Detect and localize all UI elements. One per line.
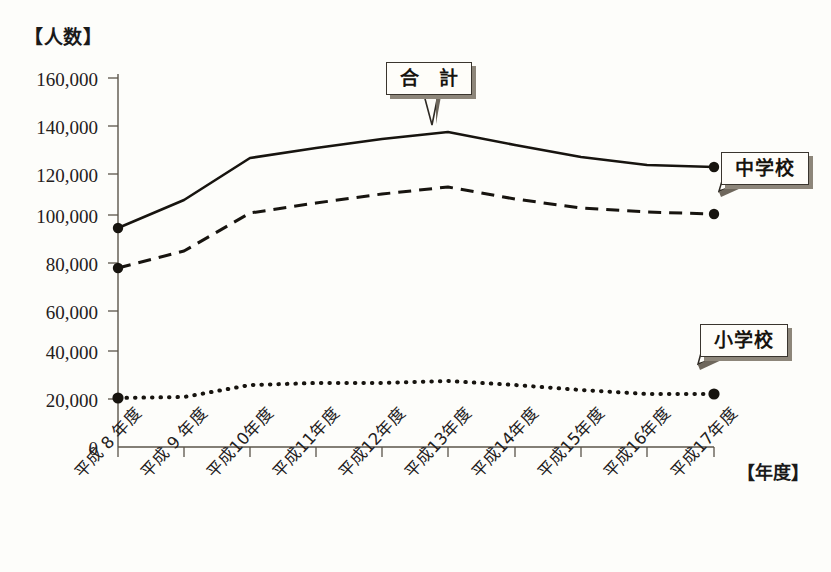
series-marker-elementary-start bbox=[112, 392, 123, 403]
series-marker-total-end bbox=[709, 162, 719, 172]
series-marker-junior-high-start bbox=[113, 263, 123, 273]
series-line-junior-high bbox=[118, 187, 714, 268]
callout-total-label: 合 計 bbox=[386, 62, 472, 95]
series-line-total bbox=[118, 132, 714, 228]
chart-page: 【人数】 【年度】 160,000 140,000 120,000 100,00… bbox=[0, 0, 831, 572]
callout-elementary-label: 小学校 bbox=[700, 324, 788, 357]
series-marker-junior-high-end bbox=[709, 209, 719, 219]
series-line-elementary bbox=[118, 381, 714, 398]
callout-leader-total bbox=[424, 95, 441, 125]
callout-junior-high-label: 中学校 bbox=[721, 152, 809, 185]
y-tick-marks bbox=[108, 78, 118, 399]
series-marker-total-start bbox=[113, 223, 123, 233]
series-marker-elementary-end bbox=[708, 388, 719, 399]
